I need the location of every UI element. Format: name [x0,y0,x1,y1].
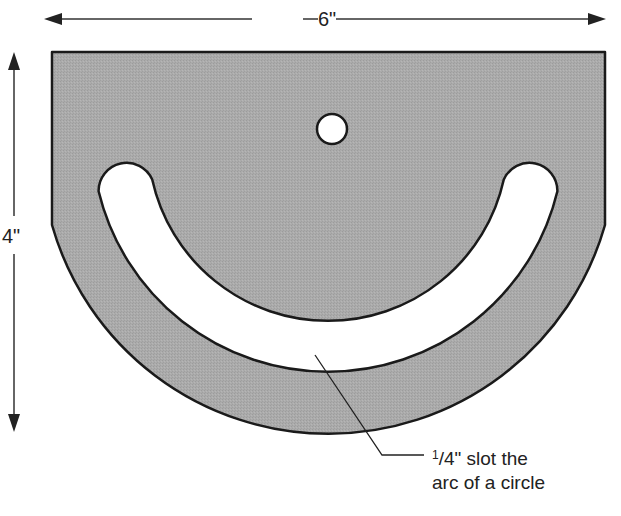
arrowhead-left-icon [44,13,62,25]
arrowhead-right-icon [588,13,606,25]
center-hole [317,114,347,144]
height-dimension-label: 4" [2,223,20,249]
callout-line-1-text: /4" slot the [439,448,528,469]
slot-callout: 1/4" slot the arc of a circle [432,443,545,495]
arrowhead-down-icon [8,414,20,432]
width-dimension-label: 6" [318,9,336,29]
callout-line-2: arc of a circle [432,471,545,495]
fraction-numerator: 1 [432,448,439,462]
template-diagram [0,0,621,516]
arrowhead-up-icon [8,52,20,70]
callout-line-1: 1/4" slot the [432,443,545,471]
